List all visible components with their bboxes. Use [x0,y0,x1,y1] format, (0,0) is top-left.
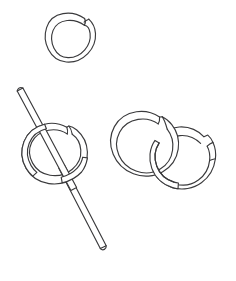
split-ring-top-inner-contour [52,20,91,57]
split-ring-top [45,13,95,62]
line-drawing-svg [0,0,236,281]
split-ring-linked-left [111,111,179,176]
drawing-canvas: Line drawing of three split rings and a … [0,0,236,281]
